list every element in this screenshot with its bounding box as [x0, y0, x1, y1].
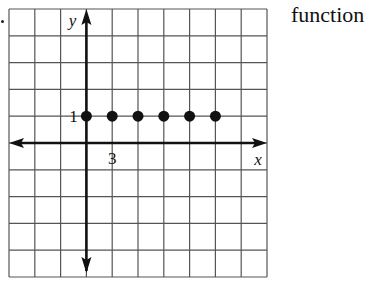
y-tick-label: 1 — [69, 107, 78, 126]
y-axis-label: y — [67, 11, 77, 30]
data-point — [210, 111, 221, 122]
data-point — [107, 111, 118, 122]
data-point — [81, 111, 92, 122]
data-point — [184, 111, 195, 122]
x-axis-label: x — [253, 150, 262, 169]
caption-text: function — [291, 1, 364, 29]
data-point — [158, 111, 169, 122]
data-point — [133, 111, 144, 122]
coordinate-plane: yx31 — [0, 0, 367, 283]
x-tick-label: 3 — [108, 149, 117, 168]
